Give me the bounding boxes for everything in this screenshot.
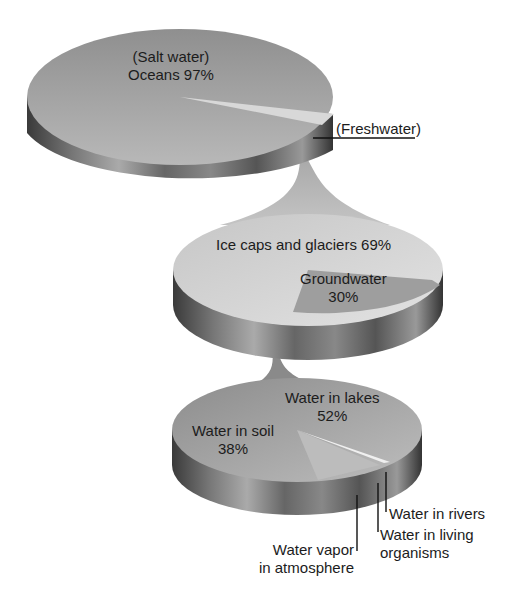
soil-label: Water in soil 38% — [192, 422, 274, 458]
rivers-label: Water in rivers — [389, 505, 485, 523]
freshwater-label: (Freshwater) — [336, 120, 421, 138]
organisms-label: Water in living organisms — [380, 526, 474, 562]
vapor-label-line1: Water vapor — [244, 541, 354, 559]
ice-caps-label: Ice caps and glaciers 69% — [216, 236, 391, 254]
vapor-label: Water vapor in atmosphere — [244, 541, 354, 577]
lakes-label-line1: Water in lakes — [285, 389, 379, 407]
organisms-label-line1: Water in living — [380, 526, 474, 544]
groundwater-label: Groundwater 30% — [300, 270, 387, 306]
vapor-label-line2: in atmosphere — [244, 559, 354, 577]
oceans-label-line1: (Salt water) — [128, 48, 214, 66]
organisms-label-line2: organisms — [380, 544, 474, 562]
oceans-label-line2: Oceans 97% — [128, 66, 214, 84]
soil-label-line1: Water in soil — [192, 422, 274, 440]
lakes-label-line2: 52% — [285, 407, 379, 425]
groundwater-label-line1: Groundwater — [300, 270, 387, 288]
soil-label-line2: 38% — [192, 440, 274, 458]
groundwater-label-line2: 30% — [300, 288, 387, 306]
lakes-label: Water in lakes 52% — [285, 389, 379, 425]
oceans-label: (Salt water) Oceans 97% — [128, 48, 214, 84]
